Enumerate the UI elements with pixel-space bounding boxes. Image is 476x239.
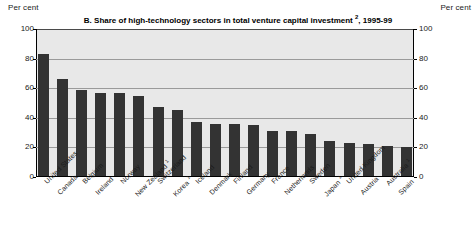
y-tick-mark-right-20 [414,147,417,148]
y-tick-label-right-80: 80 [419,55,449,63]
y-tick-mark-right-60 [414,88,417,89]
left-axis-unit-label: Per cent [8,3,39,12]
y-tick-label-left-40: 40 [8,114,34,122]
y-tick-label-left-20: 20 [8,143,34,151]
chart-container: Per cent Per cent B. Share of high-techn… [0,0,476,239]
bar [114,93,125,177]
x-tick-label: Austria [359,175,380,196]
y-tick-mark-left-0 [33,177,36,178]
chart-title: B. Share of high-technology sectors in t… [0,14,476,25]
y-tick-label-right-100: 100 [419,25,449,33]
bar [267,131,278,177]
y-tick-mark-left-60 [33,88,36,89]
y-tick-label-right-20: 20 [419,143,449,151]
bar [229,124,240,177]
bar [38,54,49,177]
y-tick-mark-left-100 [33,29,36,30]
y-tick-mark-right-100 [414,29,417,30]
y-tick-label-left-100: 100 [8,25,34,33]
x-tick-label: Korea 1 [170,174,194,198]
y-tick-label-left-60: 60 [8,84,34,92]
y-tick-mark-left-80 [33,59,36,60]
x-tick-label: Spain [397,178,415,196]
x-tick-label: Ireland [94,175,115,196]
bar [76,90,87,177]
y-tick-label-right-60: 60 [419,84,449,92]
bar [191,122,202,177]
y-tick-label-left-80: 80 [8,55,34,63]
x-axis-category-labels: United StatesCanadaBelgiumIrelandNorwayN… [36,178,414,239]
y-tick-label-right-40: 40 [419,114,449,122]
right-axis-unit-label: Per cent [440,3,471,12]
y-tick-mark-right-80 [414,59,417,60]
y-tick-label-right-0: 0 [419,173,449,181]
plot-area [36,29,414,177]
y-tick-mark-right-40 [414,118,417,119]
y-tick-mark-left-40 [33,118,36,119]
y-tick-mark-right-0 [414,177,417,178]
x-tick-label: Japan 1 [321,174,345,198]
y-tick-mark-left-20 [33,147,36,148]
bar-series [36,29,414,177]
y-tick-label-left-0: 0 [8,173,34,181]
